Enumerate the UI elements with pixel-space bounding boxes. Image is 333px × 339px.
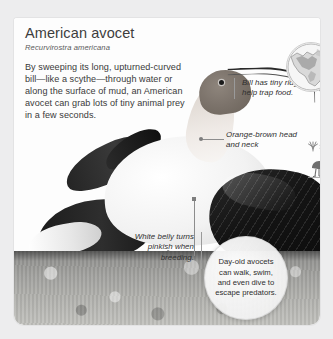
species-info-card: American avocet Recurvirostra americana … <box>14 18 320 325</box>
leader-line-head-neck <box>202 139 224 140</box>
description-paragraph: By sweeping its long, upturned-curved bi… <box>25 62 190 122</box>
habitat-wading-bird-icon <box>306 138 320 180</box>
leader-dot-belly <box>192 197 196 201</box>
leader-dot-head-neck <box>199 137 203 141</box>
page-background: American avocet Recurvirostra americana … <box>0 0 333 339</box>
callout-chicks-text: Day-old avocets can walk, swim, and even… <box>205 257 287 299</box>
scientific-name: Recurvirostra americana <box>25 43 190 53</box>
page-title: American avocet <box>25 24 190 42</box>
bird-eye <box>219 80 224 85</box>
text-column: American avocet Recurvirostra americana … <box>25 24 190 122</box>
callout-head-neck: Orange-brown head and neck <box>226 130 306 151</box>
callout-chicks-circle: Day-old avocets can walk, swim, and even… <box>204 236 288 320</box>
callout-belly: White belly turns pinkish when breeding. <box>126 232 202 263</box>
